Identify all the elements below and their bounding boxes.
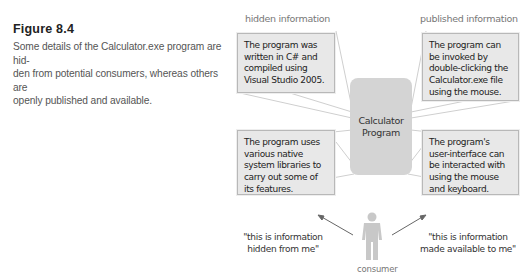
- calculator-program-node: Calculator Program: [350, 78, 412, 175]
- consumer-person-icon: [358, 212, 386, 262]
- available-quote: "this is informationmade available to me…: [418, 232, 518, 255]
- published-info-box-interface: The program's user-interface can be inte…: [422, 130, 519, 195]
- consumer-label: consumer: [357, 264, 397, 274]
- published-info-box-invocation: The program can be invoked by double-cli…: [422, 33, 519, 101]
- hidden-info-box-compiler: The program was written in C# and compil…: [237, 33, 335, 93]
- hidden-quote: "this is informationhidden from me": [243, 232, 323, 255]
- published-information-heading: published information: [420, 13, 518, 24]
- hidden-information-heading: hidden information: [245, 13, 330, 24]
- center-label-line1: Calculator: [358, 115, 403, 127]
- hidden-info-box-libraries: The program uses various native system l…: [237, 130, 335, 195]
- center-label-line2: Program: [358, 127, 403, 139]
